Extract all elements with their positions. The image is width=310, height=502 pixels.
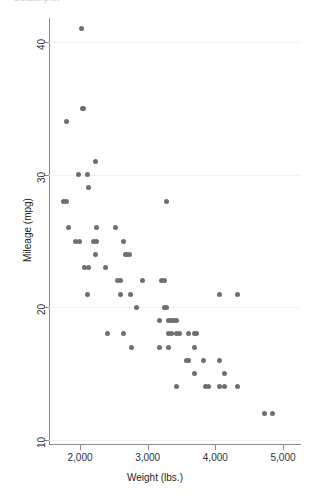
data-point [129, 345, 134, 350]
x-axis-tick [215, 445, 216, 450]
gridline [49, 440, 301, 441]
x-axis-tick-label: 4,000 [200, 452, 230, 463]
data-point [174, 318, 179, 323]
y-axis-tick-label: 20 [36, 304, 47, 315]
data-point [77, 239, 82, 244]
data-point [217, 358, 222, 363]
data-point [186, 358, 191, 363]
data-point [222, 371, 227, 376]
gridline [49, 307, 301, 308]
y-axis-tick-label: 40 [36, 39, 47, 50]
data-point [94, 225, 99, 230]
data-point [157, 318, 162, 323]
data-point [270, 411, 275, 416]
data-point [86, 185, 91, 190]
x-axis-tick-label: 3,000 [133, 452, 163, 463]
data-point [217, 292, 222, 297]
scatter-plot-figure: Scatterplot 10203040 2,0003,0004,0005,00… [0, 0, 310, 502]
data-point [140, 278, 145, 283]
data-point [262, 411, 267, 416]
y-axis-tick-label: 30 [36, 172, 47, 183]
data-point [235, 292, 240, 297]
plot-area [49, 18, 301, 445]
data-point [235, 384, 240, 389]
data-point [162, 278, 167, 283]
data-point [127, 252, 132, 257]
data-point [186, 331, 191, 336]
data-point [64, 199, 69, 204]
data-point [169, 331, 174, 336]
data-point [85, 292, 90, 297]
data-point [177, 331, 182, 336]
data-point [206, 384, 211, 389]
data-point [194, 331, 199, 336]
y-axis-title: Mileage (mpg) [22, 198, 33, 262]
clipped-title: Scatterplot [14, 0, 59, 3]
data-point [134, 305, 139, 310]
x-axis-tick-label: 2,000 [65, 452, 95, 463]
data-point [118, 278, 123, 283]
x-axis-title: Weight (lbs.) [0, 472, 310, 483]
data-point [121, 239, 126, 244]
data-point [76, 172, 81, 177]
data-point [113, 225, 118, 230]
gridline [49, 42, 301, 43]
data-point [192, 371, 197, 376]
data-point [164, 305, 169, 310]
x-axis-tick [80, 445, 81, 450]
y-axis-tick-label: 10 [36, 437, 47, 448]
data-point [157, 345, 162, 350]
data-point [174, 384, 179, 389]
data-point [93, 159, 98, 164]
data-point [166, 345, 171, 350]
data-point [128, 292, 133, 297]
data-point [93, 252, 98, 257]
data-point [94, 239, 99, 244]
data-point [121, 331, 126, 336]
data-point [66, 225, 71, 230]
x-axis-tick [148, 445, 149, 450]
data-point [64, 119, 69, 124]
x-axis-tick-label: 5,000 [268, 452, 298, 463]
data-point [201, 358, 206, 363]
data-point [103, 265, 108, 270]
data-point [105, 331, 110, 336]
data-point [192, 345, 197, 350]
y-axis-line [49, 18, 50, 445]
data-point [79, 26, 84, 31]
data-point [85, 172, 90, 177]
x-axis-line [49, 444, 301, 445]
data-point [164, 199, 169, 204]
data-point [222, 384, 227, 389]
data-point [118, 292, 123, 297]
data-point [86, 265, 91, 270]
x-axis-tick [283, 445, 284, 450]
